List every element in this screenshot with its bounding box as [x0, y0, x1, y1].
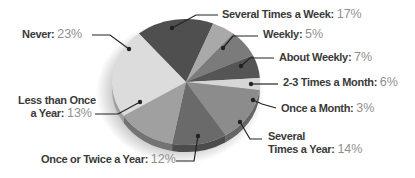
label-about-weekly: About Weekly: 7% — [279, 51, 372, 64]
leader-dot — [170, 26, 174, 30]
label-once-or-twice-a-year: Once or Twice a Year: 12% — [41, 153, 176, 166]
leader-dot — [138, 100, 142, 104]
leader-dot — [251, 98, 255, 102]
leader-dot — [196, 134, 200, 138]
label-less-than-once-a-year: Less than Once a Year: 13% — [18, 94, 92, 120]
label-several-times-a-week: Several Times a Week: 17% — [222, 8, 362, 21]
label-2-3-times-a-month: 2-3 Times a Month: 6% — [283, 76, 398, 89]
leader-dot — [238, 120, 242, 124]
leader-dot — [127, 47, 131, 51]
pie-slices — [112, 19, 260, 145]
leader-dot — [249, 82, 253, 86]
label-once-a-month: Once a Month: 3% — [281, 102, 374, 115]
label-weekly: Weekly: 5% — [263, 28, 323, 41]
label-never: Never: 23% — [22, 28, 82, 41]
label-several-times-a-year: Several Times a Year: 14% — [268, 130, 362, 156]
leader-dot — [239, 64, 243, 68]
leader-dot — [221, 46, 225, 50]
